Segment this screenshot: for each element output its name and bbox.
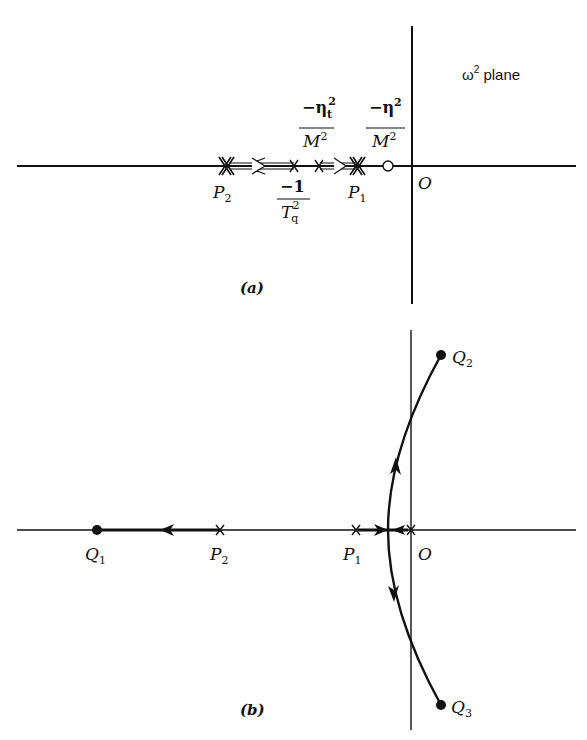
label-p2-a: P2 bbox=[212, 182, 231, 205]
point-q3 bbox=[436, 700, 446, 710]
root-locus-figure: ω2 plane bbox=[0, 0, 587, 740]
svg-text:−ηt2: −ηt2 bbox=[302, 95, 336, 121]
svg-text:Tq2: Tq2 bbox=[281, 199, 299, 225]
label-q3: Q3 bbox=[451, 697, 472, 720]
point-q2 bbox=[436, 350, 446, 360]
locus-curve-upper bbox=[388, 355, 441, 530]
locus-curve-lower bbox=[388, 530, 441, 705]
point-q1 bbox=[92, 525, 102, 535]
label-p2-b: P2 bbox=[209, 544, 228, 567]
caption-a: (a) bbox=[240, 279, 264, 297]
label-q2: Q2 bbox=[452, 347, 473, 370]
label-tq-fraction: −1 Tq2 bbox=[277, 177, 310, 225]
label-eta-fraction: −η2 M2 bbox=[366, 96, 405, 151]
label-q1: Q1 bbox=[85, 544, 106, 567]
label-eta-t-fraction: −ηt2 M2 bbox=[299, 95, 336, 151]
svg-text:M2: M2 bbox=[371, 130, 396, 151]
label-p1-a: P1 bbox=[347, 182, 366, 205]
svg-text:−1: −1 bbox=[280, 177, 305, 196]
panel-b: Q1 P2 P1 O Q2 Q3 (b) bbox=[17, 330, 576, 730]
zero-circle bbox=[383, 161, 393, 171]
svg-text:−η2: −η2 bbox=[369, 96, 402, 117]
panel-a: ω2 plane bbox=[17, 26, 576, 304]
plane-label: ω2 plane bbox=[462, 64, 520, 83]
label-p1-b: P1 bbox=[342, 544, 361, 567]
label-origin-b: O bbox=[418, 544, 432, 564]
svg-text:M2: M2 bbox=[302, 130, 327, 151]
caption-b: (b) bbox=[240, 701, 265, 719]
label-origin-a: O bbox=[418, 173, 432, 193]
